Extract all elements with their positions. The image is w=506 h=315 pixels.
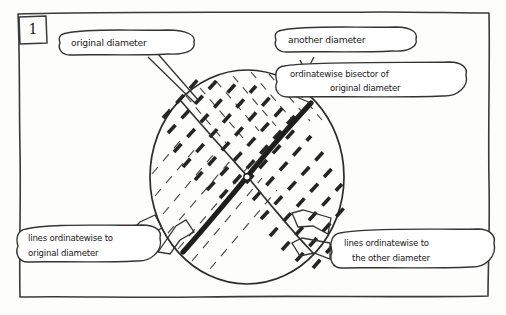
- callout-lines-other: lines ordinatewise to the other diameter: [292, 210, 494, 268]
- callout-lines-original-line1: lines ordinatewise to: [28, 233, 113, 243]
- callout-lines-other-line2: the other diameter: [352, 253, 430, 263]
- figure-number: 1: [29, 21, 38, 37]
- callout-original-diameter: original diameter: [59, 30, 199, 104]
- callout-another-diameter-text: another diameter: [288, 34, 366, 45]
- figure-canvas: 1: [0, 0, 506, 315]
- callout-lines-other-line1: lines ordinatewise to: [344, 238, 429, 248]
- callout-ordinatewise-bisector: ordinatewise bisector of original diamet…: [276, 62, 467, 104]
- figure-number-box: 1: [19, 16, 47, 44]
- callout-bisector-line2: original diameter: [330, 83, 401, 93]
- callout-original-diameter-text: original diameter: [71, 37, 147, 48]
- circle-center-point: [244, 174, 250, 180]
- callout-lines-original: lines ordinatewise to original diameter: [17, 215, 194, 262]
- callout-lines-original-line2: original diameter: [28, 248, 99, 258]
- callout-bisector-line1: ordinatewise bisector of: [290, 69, 390, 79]
